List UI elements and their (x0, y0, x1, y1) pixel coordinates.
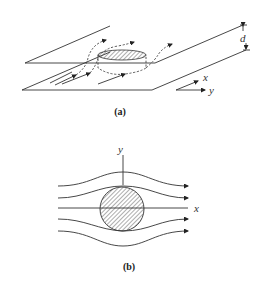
flow-arrows-incoming (50, 72, 125, 85)
panel-b: y x (b) (58, 143, 199, 273)
axis-x-label-b: x (193, 202, 199, 214)
gap-label: d (240, 32, 246, 44)
figure: d x y (a) y (0, 0, 265, 284)
caption-b: (b) (123, 261, 135, 273)
panel-a: d x y (a) (22, 25, 250, 118)
obstacle-cylinder (98, 50, 146, 74)
axes-a: x y (176, 71, 214, 96)
cylinder-cross-section (100, 187, 144, 231)
gap-dimension: d (240, 25, 250, 50)
axis-y-label: y (208, 84, 214, 96)
axis-y-label-b: y (117, 143, 123, 155)
axis-x-label: x (202, 71, 208, 83)
caption-a: (a) (114, 106, 126, 118)
